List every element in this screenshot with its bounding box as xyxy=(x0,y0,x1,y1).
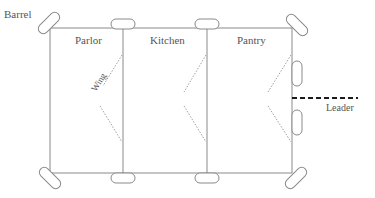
leader-label: Leader xyxy=(326,102,354,113)
room-label-parlor: Parlor xyxy=(75,34,102,46)
barrel-corner-top-left xyxy=(36,10,61,35)
wing-label: Wing xyxy=(89,71,108,93)
room-label-kitchen: Kitchen xyxy=(150,34,185,46)
barrel-bottom-1 xyxy=(111,173,135,183)
floor-plan-diagram: Barrel Parlor Kitchen Pantry Wing Leader xyxy=(0,0,375,198)
barrel-top-1 xyxy=(111,19,135,29)
wing-kitchen xyxy=(184,55,206,142)
wing-pantry xyxy=(268,55,291,142)
room-label-pantry: Pantry xyxy=(237,34,266,46)
wing-parlor xyxy=(100,55,122,142)
barrel-right-2 xyxy=(292,110,302,135)
barrel-label: Barrel xyxy=(4,8,31,20)
barrel-right-1 xyxy=(292,61,302,86)
barrel-top-2 xyxy=(195,19,219,29)
barrel-corner-top-right xyxy=(284,12,309,37)
barrel-bottom-2 xyxy=(195,173,219,183)
outer-wall xyxy=(50,28,292,173)
barrel-corner-bottom-right xyxy=(283,165,308,190)
